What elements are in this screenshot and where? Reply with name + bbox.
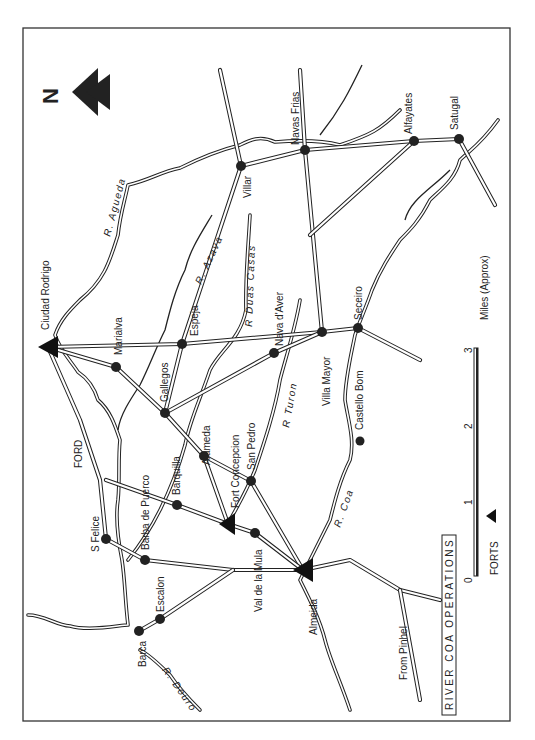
map-frame: [23, 28, 510, 721]
scale-bar: 0 1 2 3 Miles (Approx): [463, 256, 490, 583]
town-label: San Pedro: [246, 422, 257, 470]
town-marker: [300, 145, 310, 155]
town-marker: [353, 323, 363, 333]
town-label: Seceiro: [353, 286, 364, 320]
from-pinhel-label: From Pinhel: [398, 626, 409, 680]
town-label: Barca: [137, 640, 148, 667]
town-label: Villa Mayor: [321, 356, 332, 406]
town-marker: [155, 614, 165, 624]
fort-label: Almeida: [308, 598, 319, 635]
town-marker: [111, 362, 121, 372]
town-marker: [250, 528, 260, 538]
river-label: R Duas Casas: [243, 244, 257, 327]
town-marker: [140, 555, 150, 565]
town-label: Marialva: [113, 317, 124, 355]
town-marker: [177, 339, 187, 349]
scale-tick-2: 2: [463, 423, 474, 429]
legend: FORTS: [486, 509, 500, 575]
river-label: R. Azava: [193, 234, 225, 286]
town-marker: [454, 134, 464, 144]
town-marker: [160, 408, 170, 418]
map-title: RIVER COA OPERATIONS: [444, 538, 455, 710]
river-label: R Turon: [280, 381, 299, 428]
svg-text:N: N: [38, 88, 63, 104]
map-title-box: RIVER COA OPERATIONS: [442, 535, 456, 715]
town-label: Alfayates: [403, 93, 414, 134]
scale-tick-0: 0: [463, 577, 474, 583]
legend-forts-label: FORTS: [489, 541, 500, 575]
fort-label: Fort Concepcion: [230, 435, 241, 508]
town-label: Barquilla: [171, 456, 182, 495]
fort-label: Ciudad Rodrigo: [40, 260, 51, 330]
town-label: Alameda: [201, 425, 212, 465]
river-label: R. Douro: [160, 665, 199, 714]
town-marker: [134, 626, 144, 636]
town-marker: [101, 534, 111, 544]
town-label: Nava d'Aver: [274, 291, 285, 346]
town-label: Espeja: [189, 305, 200, 336]
scale-tick-3: 3: [463, 347, 474, 353]
town-marker: [269, 348, 279, 358]
river-label: R. Coa: [332, 487, 356, 528]
fort-legend-icon: [486, 509, 496, 523]
ford-label: FORD: [73, 440, 84, 468]
north-arrow-icon: N: [38, 68, 110, 116]
town-label: Satugal: [449, 96, 460, 130]
town-label: Villar: [242, 175, 253, 198]
fort-icon: [38, 336, 58, 358]
scale-label: Miles (Approx): [479, 256, 490, 320]
roads-layer: [48, 70, 495, 700]
town-label: Escalon: [155, 576, 166, 612]
town-label: Barba de Puerco: [140, 475, 151, 550]
town-label: S Felice: [90, 515, 101, 552]
river-coa-operations-map: N: [0, 0, 535, 740]
town-label: Val de la Mula: [253, 549, 264, 612]
town-marker: [409, 136, 419, 146]
town-marker: [317, 327, 327, 337]
scale-tick-1: 1: [463, 499, 474, 505]
town-marker: [236, 161, 246, 171]
town-label: Gallegos: [159, 363, 170, 402]
town-label: Castello Bom: [354, 371, 365, 430]
town-marker: [246, 476, 256, 486]
town-marker: [172, 500, 182, 510]
town-marker: [356, 437, 365, 446]
town-label: Navas Frias: [290, 92, 301, 145]
